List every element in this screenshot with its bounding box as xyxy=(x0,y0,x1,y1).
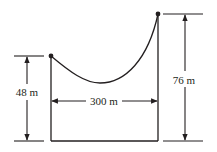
right-height-label: 76 m xyxy=(173,74,196,86)
cable-curve xyxy=(51,14,158,83)
span-label: 300 m xyxy=(90,95,118,107)
cable-diagram: 48 m 76 m 300 m xyxy=(0,0,217,152)
left-height-label: 48 m xyxy=(16,86,39,98)
right-anchor-point xyxy=(156,12,161,17)
left-anchor-point xyxy=(49,54,54,59)
